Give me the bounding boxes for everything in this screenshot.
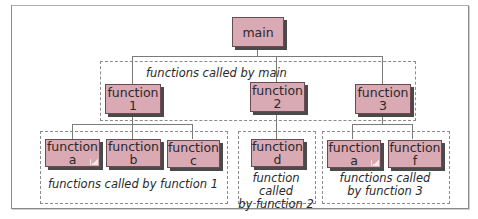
connector: [132, 113, 133, 139]
caption-line: by function 3: [322, 185, 448, 198]
node-label: main: [242, 26, 273, 39]
connector: [72, 124, 73, 139]
connector: [276, 111, 277, 139]
caption-line: function called: [236, 172, 316, 198]
node-function-f: function f: [388, 140, 442, 168]
connector: [382, 56, 383, 84]
node-sublabel: 3: [379, 99, 387, 112]
connector: [132, 56, 133, 84]
node-sublabel: 1: [129, 99, 137, 112]
node-function-c: function c: [167, 140, 220, 168]
caption-line: by function 2: [236, 198, 316, 211]
connector: [352, 124, 353, 139]
connector: [352, 124, 413, 125]
node-function-b: function b: [106, 139, 161, 167]
caption-called-by-function-2: function called by function 2: [236, 172, 316, 211]
node-function-a-2: function a: [327, 140, 381, 168]
node-function-d: function d: [251, 139, 304, 167]
node-sublabel: b: [130, 153, 138, 166]
node-function-2: function 2: [250, 82, 305, 112]
page-fold-icon: [371, 159, 379, 166]
connector: [382, 113, 383, 124]
connector: [132, 56, 383, 57]
caption-called-by-function-1: functions called by function 1: [40, 178, 226, 191]
connector: [412, 124, 413, 139]
caption-called-by-main: functions called by main: [146, 67, 306, 80]
node-function-1: function 1: [105, 84, 161, 114]
page-fold-icon: [90, 158, 98, 165]
node-sublabel: c: [190, 154, 197, 167]
node-sublabel: f: [413, 154, 417, 167]
node-main: main: [232, 17, 284, 47]
node-sublabel: a: [69, 153, 77, 166]
node-sublabel: a: [350, 154, 358, 167]
node-sublabel: d: [274, 153, 282, 166]
caption-called-by-function-3: functions called by function 3: [322, 172, 448, 198]
connector: [257, 46, 258, 56]
node-function-a: function a: [45, 139, 100, 167]
node-function-3: function 3: [355, 84, 411, 114]
connector: [72, 124, 193, 125]
node-sublabel: 2: [274, 97, 282, 110]
connector: [192, 124, 193, 139]
